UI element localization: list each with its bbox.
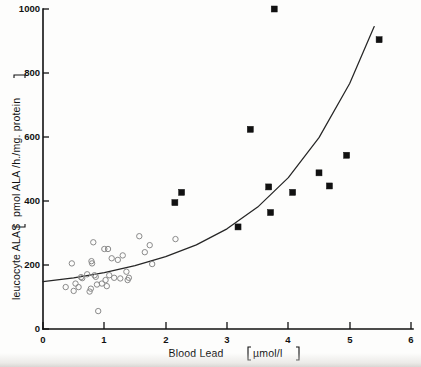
y-tick-labels: 1000 800 600 400 200 0 <box>19 3 40 334</box>
data-point-filled-square <box>172 200 178 206</box>
axes-group <box>43 9 413 329</box>
x-unit-bracket-left <box>248 347 251 360</box>
data-point-open-circle <box>104 283 109 288</box>
series-open-circles <box>63 234 178 314</box>
x-tick-label: 0 <box>40 334 45 345</box>
x-tick-label: 5 <box>347 334 353 345</box>
x-tick-label: 4 <box>285 334 291 345</box>
data-point-filled-square <box>235 224 241 230</box>
data-point-filled-square <box>290 189 296 195</box>
data-point-open-circle <box>69 261 74 266</box>
y-axis-title: leucocyte ALAS <box>10 224 22 300</box>
data-point-open-circle <box>96 308 101 313</box>
data-point-open-circle <box>120 253 125 258</box>
data-point-filled-square <box>344 152 350 158</box>
data-point-open-circle <box>142 250 147 255</box>
data-point-open-circle <box>103 277 108 282</box>
data-point-open-circle <box>149 261 154 266</box>
data-point-open-circle <box>76 284 81 289</box>
x-tick-label: 3 <box>224 334 229 345</box>
data-point-open-circle <box>111 275 116 280</box>
data-point-open-circle <box>91 240 96 245</box>
series-filled-squares <box>172 6 382 230</box>
scatter-plot-figure: 1000 800 600 400 200 0 0 1 2 3 4 5 6 Blo… <box>0 0 421 367</box>
x-unit-bracket-right <box>296 347 299 360</box>
y-axis-title-group: leucocyte ALAS pmol ALA /h./mg. protein <box>10 75 25 300</box>
x-tick-label: 2 <box>163 334 168 345</box>
data-point-filled-square <box>268 210 274 216</box>
data-point-open-circle <box>137 234 142 239</box>
data-point-open-circle <box>124 269 129 274</box>
x-axis-title-group: Blood Lead µmol/l <box>168 347 299 360</box>
data-point-open-circle <box>71 288 76 293</box>
chart-canvas: 1000 800 600 400 200 0 0 1 2 3 4 5 6 Blo… <box>0 0 421 367</box>
data-point-filled-square <box>326 183 332 189</box>
data-point-filled-square <box>179 189 185 195</box>
data-point-filled-square <box>266 184 272 190</box>
data-point-open-circle <box>118 276 123 281</box>
data-point-open-circle <box>147 242 152 247</box>
data-point-open-circle <box>73 281 78 286</box>
y-tick-label: 1000 <box>19 3 40 14</box>
data-point-filled-square <box>316 170 322 176</box>
data-point-filled-square <box>247 126 253 132</box>
x-axis-unit: µmol/l <box>253 347 282 359</box>
y-tick-label: 600 <box>24 131 40 142</box>
y-tick-label: 800 <box>24 67 40 78</box>
x-tick-label: 6 <box>408 334 413 345</box>
y-axis-unit: pmol ALA /h./mg. protein <box>10 98 22 217</box>
data-point-open-circle <box>93 274 98 279</box>
data-point-open-circle <box>115 257 120 262</box>
y-tick-label: 200 <box>24 259 40 270</box>
x-axis-title: Blood Lead <box>168 347 223 359</box>
y-tick-label: 400 <box>24 195 40 206</box>
data-point-open-circle <box>173 236 178 241</box>
y-tick-label: 0 <box>35 323 40 334</box>
data-point-open-circle <box>105 246 110 251</box>
regression-curve <box>43 27 374 282</box>
data-point-open-circle <box>109 256 114 261</box>
x-tick-marks <box>43 322 411 329</box>
data-point-filled-square <box>271 6 277 12</box>
data-point-filled-square <box>376 37 382 43</box>
data-point-open-circle <box>63 284 68 289</box>
x-tick-label: 1 <box>101 334 107 345</box>
x-tick-labels: 0 1 2 3 4 5 6 <box>40 334 413 345</box>
